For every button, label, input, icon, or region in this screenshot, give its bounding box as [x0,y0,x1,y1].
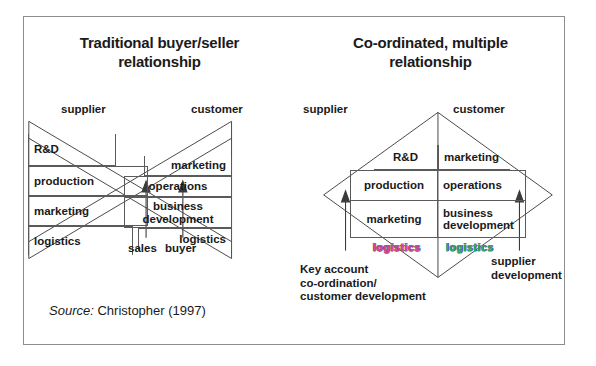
left-customer-cell-business-development-line-2: development [143,213,214,226]
right-supplier-cell-rd-label: R&D [393,151,418,164]
key-account-arrow-label-line-2: co-ordination/ [300,277,440,291]
supplier-development-arrow-label-line-1: supplier [491,255,571,269]
left-customer-cell-business-development-line-1: business [153,200,203,213]
right-customer-cell-operations: operations [438,170,526,201]
left-supplier-cell-production-label: production [34,175,94,188]
left-supplier-cell-logistics-label: logistics [34,235,81,248]
right-customer-cell-business-development-line-2: development [443,219,514,232]
left-customer-cell-operations-label: operations [149,180,208,193]
source-note-label: Source: [49,303,94,318]
right-customer-cell-business-development-line-1: business [443,207,493,220]
panel-traditional-relationship: Traditional buyer/seller relationship su… [24,17,295,344]
key-account-arrow-head [342,191,350,202]
right-customer-cell-logistics: logistics [446,241,494,253]
figure-frame: Traditional buyer/seller relationship su… [23,16,565,345]
left-supplier-cell-logistics: logistics [28,226,133,255]
left-supplier-cell-marketing-label: marketing [34,205,89,218]
right-supplier-cell-marketing: marketing [350,201,438,238]
right-supplier-cell-production: production [350,170,438,201]
right-customer-cell-marketing-label: marketing [444,151,499,164]
right-customer-cell-marketing: marketing [438,145,510,170]
left-customer-cell-business-development: business development [124,197,232,228]
left-customer-cell-marketing: marketing [144,156,232,176]
left-customer-cell-marketing-label: marketing [171,159,226,172]
right-customer-cell-business-development: business development [438,201,526,238]
supplier-development-arrow-label-line-2: development [491,269,571,283]
sales-arrow-label: sales [128,242,157,256]
right-customer-cell-operations-label: operations [443,179,502,192]
left-supplier-cell-rd: R&D [28,134,116,166]
key-account-arrow-label-line-1: Key account [300,263,440,277]
source-note: Source: Christopher (1997) [49,303,206,318]
buyer-arrow-label: buyer [165,242,196,256]
left-supplier-cell-rd-label: R&D [34,143,59,156]
right-supplier-cell-production-label: production [364,179,424,192]
panel-coordinated-relationship: Co-ordinated, multiple relationship supp… [295,17,566,344]
key-account-arrow-label: Key account co-ordination/ customer deve… [300,263,440,304]
right-supplier-cell-logistics: logistics [373,241,421,253]
left-customer-cell-operations: operations [124,176,232,197]
supplier-development-arrow-label: supplier development [491,255,571,282]
right-supplier-cell-marketing-label: marketing [367,213,422,226]
source-note-text: Christopher (1997) [97,303,205,318]
key-account-arrow-label-line-3: customer development [300,290,440,304]
right-supplier-cell-rd: R&D [374,145,438,170]
